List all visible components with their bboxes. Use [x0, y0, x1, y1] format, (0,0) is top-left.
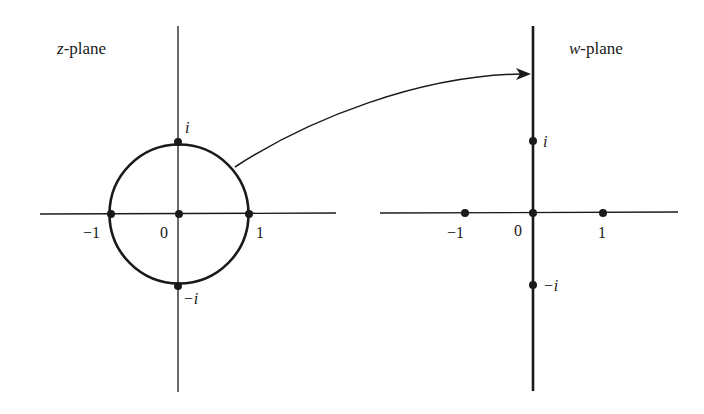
w-point-one	[599, 209, 607, 217]
w-label-one: 1	[598, 224, 606, 241]
w-label-neg-one: −1	[447, 224, 464, 241]
z-real-axis	[40, 213, 336, 214]
w-label-neg-i: −i	[543, 277, 558, 294]
w-label-zero: 0	[514, 222, 522, 239]
z-label-neg-i: −i	[183, 290, 198, 307]
z-point-neg-one	[107, 210, 115, 218]
z-plane-title-rest: -plane	[64, 39, 106, 58]
arrow-curve	[235, 74, 520, 167]
z-plane-title: z-plane	[56, 39, 106, 58]
w-plane-title: w-plane	[569, 39, 623, 58]
w-plane-title-rest: -plane	[580, 39, 622, 58]
w-real-axis	[380, 212, 678, 213]
z-label-one: 1	[256, 224, 264, 241]
z-point-i	[174, 138, 182, 146]
mapping-diagram: z-plane i −i −1 0 1 w-plane i −i −1 0 1	[0, 0, 704, 414]
z-point-one	[245, 210, 253, 218]
w-plane-var: w	[569, 39, 581, 58]
z-label-zero: 0	[160, 224, 168, 241]
z-label-neg-one: −1	[83, 224, 100, 241]
z-label-i: i	[185, 119, 189, 136]
w-point-zero	[529, 209, 537, 217]
mapping-arrow	[235, 68, 531, 167]
w-point-neg-i	[529, 281, 537, 289]
w-label-i: i	[543, 133, 547, 150]
w-plane: w-plane i −i −1 0 1	[380, 26, 678, 391]
z-point-zero	[175, 210, 183, 218]
z-point-neg-i	[174, 282, 182, 290]
w-point-i	[529, 137, 537, 145]
z-plane: z-plane i −i −1 0 1	[40, 26, 336, 392]
w-point-neg-one	[461, 209, 469, 217]
